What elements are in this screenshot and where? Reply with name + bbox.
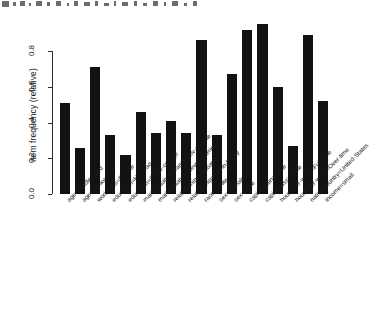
bar-cell [240,28,255,194]
scan-speckle [56,1,61,6]
scan-speckle [184,3,187,6]
y-tick-label: 0.6 [27,73,36,99]
y-tick-mark [48,87,52,88]
y-tick-mark [48,123,52,124]
scan-speckle [172,1,178,6]
scan-speckle [47,2,50,6]
scan-artifact-band [0,0,347,10]
scan-speckle [2,1,9,7]
scan-speckle [134,1,137,6]
y-tick-label: 0.4 [27,109,36,135]
scan-speckle [74,1,78,6]
x-axis-labels: age=Middle-agedage=Seniorworkclass=Priva… [57,196,331,308]
bar [60,103,70,194]
bar [227,74,237,194]
y-tick-label: 0.2 [27,145,36,171]
scan-speckle [20,1,25,6]
y-axis-line [52,51,53,194]
scan-speckle [36,1,42,6]
bar-cell [103,28,118,194]
scan-speckle [143,3,147,6]
bar [242,30,252,194]
bar [257,24,267,194]
scan-speckle [84,2,90,6]
scan-speckle [164,2,166,6]
y-tick-label: 0.8 [27,38,36,64]
scan-speckle [193,1,197,6]
scan-speckle [122,2,128,6]
y-tick-label: 0.0 [27,181,36,207]
bar-cell [224,28,239,194]
scan-speckle [29,3,31,6]
bar-cell [72,28,87,194]
y-tick-mark [48,194,52,195]
scan-speckle [13,2,16,6]
bar-cell [255,28,270,194]
scan-speckle [95,1,98,6]
y-tick-mark [48,51,52,52]
scan-speckle [114,1,116,6]
y-tick-mark [48,158,52,159]
scan-speckle [104,3,109,6]
scan-speckle [67,3,69,6]
bar-cell [57,28,72,194]
scan-speckle [153,1,158,6]
